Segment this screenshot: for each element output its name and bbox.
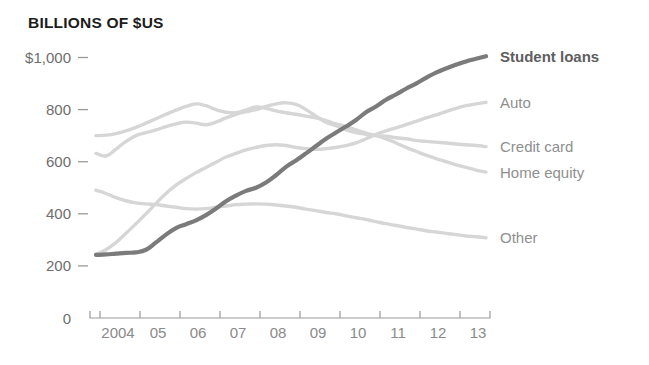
x-axis-tick-label: 05: [150, 324, 167, 341]
x-axis-tick-label: 08: [270, 324, 287, 341]
x-axis-tick-label: 09: [310, 324, 327, 341]
y-axis-tick-label: 600: [46, 153, 71, 170]
x-axis-tick-label: 2004: [101, 324, 134, 341]
x-axis-tick-label: 13: [470, 324, 487, 341]
y-axis-tick-label: 400: [46, 205, 71, 222]
y-axis-tick-label: 200: [46, 257, 71, 274]
line-chart-svg: $1,0008006004002000 20040506070809101112…: [0, 0, 649, 365]
series-line-other: [96, 190, 486, 237]
y-axis-tick-label: 800: [46, 101, 71, 118]
x-axis-tick-label: 12: [430, 324, 447, 341]
y-axis-tick-label: 0: [63, 310, 71, 327]
y-axis: $1,0008006004002000: [25, 49, 88, 327]
series-label-other: Other: [500, 229, 538, 246]
y-axis-tick-label: $1,000: [25, 49, 71, 66]
x-axis-tick-label: 10: [350, 324, 367, 341]
x-axis-tick-label: 06: [190, 324, 207, 341]
series-label-home-equity: Home equity: [500, 164, 585, 181]
x-axis: 2004050607080910111213: [90, 311, 490, 341]
series-label-credit-card: Credit card: [500, 138, 573, 155]
x-axis-tick-label: 07: [230, 324, 247, 341]
chart-container: BILLIONS OF $US $1,0008006004002000 2004…: [0, 0, 649, 365]
series-labels: Student loansAutoCredit cardHome equityO…: [500, 48, 599, 247]
series-label-auto: Auto: [500, 94, 531, 111]
series-label-student-loans: Student loans: [500, 48, 599, 65]
x-axis-line: [90, 311, 490, 318]
x-axis-tick-label: 11: [390, 324, 406, 341]
series-lines: [96, 56, 486, 255]
